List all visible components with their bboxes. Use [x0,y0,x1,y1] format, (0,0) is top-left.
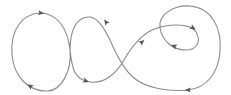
arrow-middle-top-icon [102,18,110,26]
looping-path-curve [12,6,220,91]
directed-curve-diagram [0,0,231,95]
arrow-middle-bottom-icon [82,78,89,85]
arrow-right-inner-top-icon [189,24,197,32]
direction-arrows-group [26,10,197,92]
